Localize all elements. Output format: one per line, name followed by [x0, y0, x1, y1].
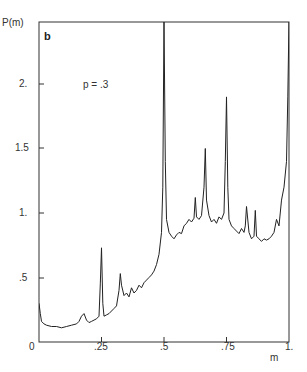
y-tick-label-2: 2.: [19, 78, 27, 89]
panel-label: b: [44, 30, 51, 42]
y-tick-label-1: 1.: [19, 207, 27, 218]
parameter-annotation: p = .3: [83, 79, 109, 90]
y-tick-label-0.5: .5: [19, 272, 28, 283]
x-axis-label: m: [270, 352, 278, 363]
x-tick-label-0.25: .25: [94, 341, 108, 352]
x-tick-label-0.75: .75: [221, 341, 235, 352]
x-tick-label-0: 0: [29, 341, 35, 352]
chart-canvas: P(m) m 2. 1.5 1. .5 0 .25 .5 .75 1. b p …: [0, 0, 307, 372]
y-axis-label: P(m): [2, 17, 24, 28]
series-line-p-of-m: [39, 20, 289, 328]
x-tick-label-0.5: .5: [160, 341, 169, 352]
y-ticks: [39, 84, 44, 278]
y-tick-label-1.5: 1.5: [15, 142, 29, 153]
x-tick-label-1: 1.: [285, 341, 293, 352]
